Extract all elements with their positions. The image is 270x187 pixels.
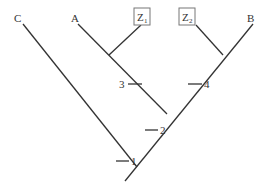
taxon-label-b: B — [247, 12, 254, 24]
svg-text:Z: Z — [182, 11, 189, 23]
branch-z2 — [196, 25, 223, 55]
cladogram: 1 2 3 4 C A B Z 1 Z 2 — [0, 0, 270, 187]
tick-label-4: 4 — [204, 78, 210, 90]
tick-label-2: 2 — [160, 124, 166, 136]
svg-text:1: 1 — [144, 17, 148, 25]
branch-b — [125, 24, 253, 181]
branch-a — [78, 24, 167, 114]
taxon-box-z1: Z 1 — [134, 8, 150, 25]
tick-label-3: 3 — [119, 78, 125, 90]
taxon-label-c: C — [14, 12, 21, 24]
branch-z1 — [109, 25, 141, 55]
taxon-box-z2: Z 2 — [179, 8, 195, 25]
taxon-label-a: A — [71, 12, 79, 24]
svg-text:Z: Z — [137, 11, 144, 23]
svg-text:2: 2 — [189, 17, 193, 25]
tick-label-1: 1 — [131, 155, 137, 167]
